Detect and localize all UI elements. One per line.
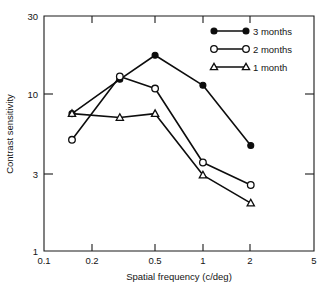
y-axis-ticks	[44, 94, 314, 174]
legend-entry-3-months: 3 months	[211, 26, 292, 37]
x-tick-label-5: 5	[311, 255, 316, 266]
data-point	[247, 182, 254, 189]
legend-label-1-month: 1 month	[253, 62, 287, 73]
data-point	[68, 110, 75, 117]
chart-figure: 0.1 0.2 0.5 1 2 5 30 10 3 1 Spatial freq…	[0, 0, 329, 289]
series-line-3-months	[72, 55, 251, 145]
data-point	[152, 52, 158, 58]
series-line-1-month	[72, 114, 251, 203]
series-line-2-months	[72, 76, 251, 184]
series-markers-2-months	[69, 73, 254, 188]
data-point	[200, 82, 206, 88]
legend-label-3-months: 3 months	[253, 26, 292, 37]
contrast-sensitivity-chart: 0.1 0.2 0.5 1 2 5 30 10 3 1 Spatial freq…	[0, 0, 329, 289]
x-tick-label-1: 0.2	[85, 255, 98, 266]
legend-entry-1-month: 1 month	[210, 62, 287, 73]
data-point	[69, 136, 76, 143]
y-tick-label-3: 3	[33, 169, 38, 180]
data-point	[151, 110, 158, 117]
data-point	[117, 73, 124, 80]
x-tick-label-2: 0.5	[148, 255, 161, 266]
x-tick-label-3: 1	[200, 255, 205, 266]
chart-legend: 3 months 2 months 1 month	[210, 26, 292, 73]
x-tick-label-0: 0.1	[37, 255, 50, 266]
data-point	[200, 159, 207, 166]
y-tick-label-30: 30	[27, 11, 38, 22]
data-point	[247, 199, 254, 206]
x-tick-label-4: 2	[247, 255, 252, 266]
data-point	[152, 85, 159, 92]
legend-label-2-months: 2 months	[253, 44, 292, 55]
y-axis-title: Contrast sensitivity	[4, 94, 15, 174]
series-markers-1-month	[68, 110, 254, 206]
x-axis-title: Spatial frequency (c/deg)	[126, 271, 232, 282]
y-tick-label-10: 10	[27, 89, 38, 100]
data-point	[116, 114, 123, 121]
legend-entry-2-months: 2 months	[211, 44, 293, 55]
y-tick-label-1: 1	[33, 246, 38, 257]
data-point	[248, 143, 254, 149]
